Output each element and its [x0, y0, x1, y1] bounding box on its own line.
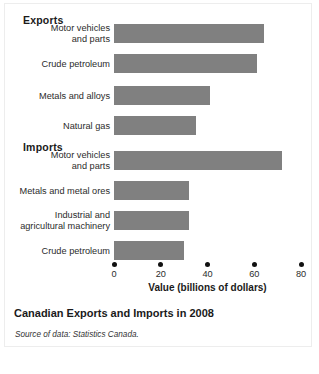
source-note: Source of data: Statistics Canada.: [15, 330, 139, 339]
tick-dot-icon: [252, 262, 257, 267]
tick-dot-icon: [112, 262, 117, 267]
tick-dot-icon: [205, 262, 210, 267]
bar-row: Crude petroleum: [0, 54, 319, 73]
bar-label: Crude petroleum: [0, 246, 110, 257]
bar: [114, 24, 264, 43]
x-axis-tick-label: 40: [194, 269, 222, 279]
bar: [114, 181, 189, 200]
bar: [114, 86, 210, 105]
bar-label: Metals and alloys: [0, 91, 110, 102]
bar-row: Metals and alloys: [0, 86, 319, 105]
bar: [114, 241, 184, 260]
x-axis-tick-label: 60: [240, 269, 268, 279]
x-axis-tick-label: 20: [147, 269, 175, 279]
bar-row: Motor vehicles and parts: [0, 151, 319, 170]
bar-row: Metals and metal ores: [0, 181, 319, 200]
plot-area: Motor vehicles and partsCrude petroleumM…: [0, 0, 319, 300]
bar-label: Metals and metal ores: [0, 186, 110, 197]
bar-row: Motor vehicles and parts: [0, 24, 319, 43]
bar-row: Industrial and agricultural machinery: [0, 211, 319, 230]
bar: [114, 151, 282, 170]
bar-label: Natural gas: [0, 121, 110, 132]
tick-dot-icon: [299, 262, 304, 267]
x-axis-title: Value (billions of dollars): [114, 282, 301, 293]
bar: [114, 116, 196, 135]
bar-label: Crude petroleum: [0, 59, 110, 70]
bar-row: Natural gas: [0, 116, 319, 135]
x-axis-tick-label: 80: [287, 269, 315, 279]
bar: [114, 211, 189, 230]
bar: [114, 54, 257, 73]
bar-label: Motor vehicles and parts: [0, 23, 110, 44]
x-axis-tick-label: 0: [100, 269, 128, 279]
tick-dot-icon: [158, 262, 163, 267]
chart-figure: Exports Imports Motor vehicles and parts…: [0, 0, 319, 374]
bar-label: Industrial and agricultural machinery: [0, 210, 110, 231]
bar-label: Motor vehicles and parts: [0, 150, 110, 171]
bar-row: Crude petroleum: [0, 241, 319, 260]
figure-caption: Canadian Exports and Imports in 2008: [14, 307, 214, 319]
